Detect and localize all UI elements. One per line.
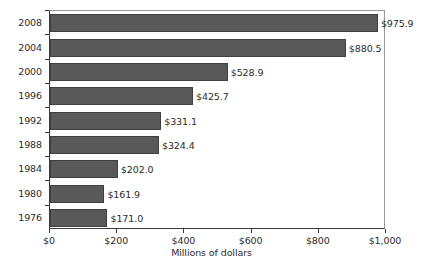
x-tick-mark [183, 229, 184, 233]
bar-row: $161.9 [50, 185, 386, 203]
y-tick-label-2008: 2008 [0, 17, 42, 28]
bar [50, 136, 159, 154]
bar-value-label: $171.0 [110, 212, 143, 223]
bar-row: $880.5 [50, 39, 386, 57]
bar-row: $202.0 [50, 160, 386, 178]
bar-value-label: $528.9 [231, 66, 264, 77]
x-tick-mark [318, 229, 319, 233]
bar [50, 39, 346, 57]
bar [50, 63, 228, 81]
x-tick-label-0: $0 [43, 235, 55, 246]
bar-row: $528.9 [50, 63, 386, 81]
x-tick-label-600: $600 [239, 235, 263, 246]
bar-row: $331.1 [50, 112, 386, 130]
x-axis-title: Millions of dollars [0, 247, 423, 258]
bar-row: $975.9 [50, 14, 386, 32]
x-tick-label-800: $800 [306, 235, 330, 246]
bar [50, 185, 104, 203]
bar [50, 160, 118, 178]
y-tick-label-1984: 1984 [0, 163, 42, 174]
y-tick-label-1988: 1988 [0, 138, 42, 149]
bar-value-label: $161.9 [107, 188, 140, 199]
y-tick-label-1976: 1976 [0, 211, 42, 222]
y-tick-label-2004: 2004 [0, 41, 42, 52]
bar-row: $425.7 [50, 87, 386, 105]
x-tick-label-400: $400 [172, 235, 196, 246]
bar-value-label: $880.5 [349, 42, 382, 53]
bar-value-label: $331.1 [164, 115, 197, 126]
bar [50, 14, 378, 32]
x-tick-mark [385, 229, 386, 233]
x-tick-mark [116, 229, 117, 233]
bar-value-label: $324.4 [162, 139, 195, 150]
bar [50, 209, 107, 227]
bar [50, 112, 161, 130]
x-tick-label-200: $200 [104, 235, 128, 246]
plot-area: $975.9$880.5$528.9$425.7$331.1$324.4$202… [49, 10, 385, 229]
bar-value-label: $202.0 [121, 164, 154, 175]
x-tick-mark [251, 229, 252, 233]
bar [50, 87, 193, 105]
bar-value-label: $975.9 [381, 18, 414, 29]
bar-value-label: $425.7 [196, 91, 229, 102]
y-tick-label-1996: 1996 [0, 90, 42, 101]
y-tick-label-2000: 2000 [0, 65, 42, 76]
bar-row: $171.0 [50, 209, 386, 227]
bar-chart: 200820042000199619921988198419801976 $97… [0, 0, 423, 268]
x-tick-mark [49, 229, 50, 233]
y-tick-label-1980: 1980 [0, 187, 42, 198]
bar-row: $324.4 [50, 136, 386, 154]
y-tick-label-1992: 1992 [0, 114, 42, 125]
x-tick-label-1000: $1,000 [369, 235, 402, 246]
